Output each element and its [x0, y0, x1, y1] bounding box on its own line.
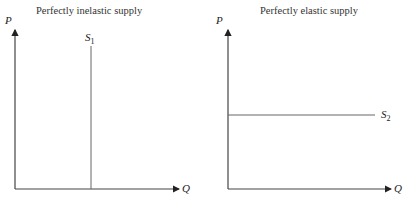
right-x-axis-label: Q [394, 182, 402, 194]
diagram-canvas [0, 0, 403, 203]
right-y-axis-label: P [216, 14, 223, 26]
s1-label-subscript: 1 [91, 37, 95, 46]
s1-label: S1 [85, 31, 95, 46]
left-panel-title: Perfectly inelastic supply [36, 5, 142, 16]
left-x-axis-label: Q [182, 182, 190, 194]
s2-label: S2 [381, 108, 391, 123]
s2-label-subscript: 2 [387, 114, 391, 123]
right-panel-title: Perfectly elastic supply [260, 5, 358, 16]
left-y-axis-label: P [5, 14, 12, 26]
